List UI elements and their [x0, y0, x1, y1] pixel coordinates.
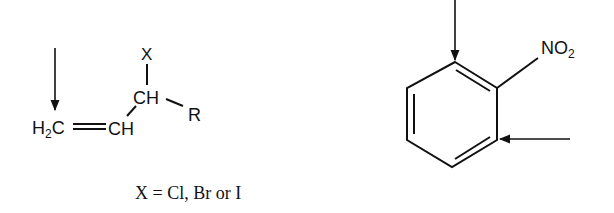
ch-upper-label: CH	[133, 88, 159, 108]
ch-lower-label: CH	[108, 119, 134, 139]
x-label: X	[141, 45, 152, 64]
benzene-ring	[407, 62, 497, 167]
nitrobenzene-molecule: NO2	[407, 0, 575, 167]
reaction-diagram: H2C CH CH X R X = Cl, Br or I NO2	[0, 0, 614, 213]
bond-c-r	[166, 99, 183, 106]
allylic-halide-molecule: H2C CH CH X R X = Cl, Br or I	[32, 45, 241, 203]
h2c-label: H2C	[32, 118, 65, 141]
r-label: R	[188, 105, 201, 125]
bond-ring-no2	[497, 58, 538, 88]
halogen-caption: X = Cl, Br or I	[135, 183, 241, 203]
no2-label: NO2	[541, 38, 575, 61]
